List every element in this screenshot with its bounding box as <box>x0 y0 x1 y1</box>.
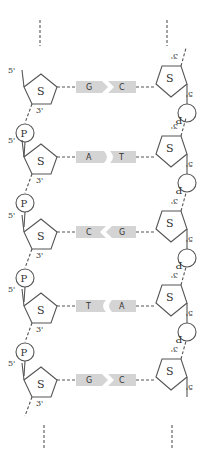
dna-diagram-svg: 5'S3'PGC3'S5'P5'S3'PAT3'S5'P5'S3'PCG3'S5… <box>0 0 209 465</box>
right-3prime-label: 3' <box>171 122 178 131</box>
left-phosphate-bond <box>24 212 25 227</box>
left-phosphate-label: P <box>21 128 28 139</box>
left-base <box>76 300 106 312</box>
left-base-label: G <box>86 376 92 385</box>
right-base-label: T <box>118 153 124 162</box>
left-5prime-bond <box>22 140 24 157</box>
left-base-label: A <box>86 153 92 162</box>
left-base-label: C <box>86 228 92 237</box>
left-phosphate-bond <box>24 287 25 302</box>
right-base-label: G <box>119 228 125 237</box>
left-phosphate-label: P <box>21 198 28 209</box>
right-5prime-label: 5' <box>186 383 193 392</box>
right-3prime-label: 3' <box>171 52 178 61</box>
left-5prime-label: 5' <box>8 136 15 145</box>
right-3prime-label: 3' <box>171 271 178 280</box>
right-sugar-label: S <box>166 291 174 304</box>
left-3prime-bond <box>25 323 32 342</box>
left-phosphate-label: P <box>21 273 28 284</box>
left-5prime-label: 5' <box>8 211 15 220</box>
right-sugar-label: S <box>166 217 174 230</box>
left-base <box>76 151 107 163</box>
left-sugar-label: S <box>37 378 45 391</box>
right-sugar-label: S <box>166 365 174 378</box>
right-phosphate-label: P <box>176 185 183 196</box>
right-5prime-label: 5' <box>186 90 193 99</box>
left-3prime-bond <box>25 174 32 193</box>
left-5prime-bond <box>22 70 24 87</box>
left-phosphate-label: P <box>21 347 28 358</box>
left-3prime-label: 3' <box>36 251 43 260</box>
right-3prime-bond <box>181 48 186 66</box>
right-phosphate-label: P <box>176 260 183 271</box>
left-sugar-label: S <box>37 155 45 168</box>
left-5prime-bond <box>22 289 24 306</box>
left-5prime-label: 5' <box>8 359 15 368</box>
left-5prime-label: 5' <box>8 285 15 294</box>
right-3prime-label: 3' <box>171 345 178 354</box>
left-base-label: T <box>85 302 91 311</box>
left-phosphate-bond <box>24 361 25 376</box>
right-3prime-label: 3' <box>171 197 178 206</box>
left-5prime-bond <box>22 363 24 380</box>
left-3prime-label: 3' <box>36 325 43 334</box>
right-sugar-label: S <box>166 72 174 85</box>
left-sugar-label: S <box>37 304 45 317</box>
left-3prime-bond <box>25 104 32 123</box>
right-5prime-label: 5' <box>186 309 193 318</box>
right-5prime-label: 5' <box>186 235 193 244</box>
left-sugar-label: S <box>37 230 45 243</box>
dna-diagram: 5'S3'PGC3'S5'P5'S3'PAT3'S5'P5'S3'PCG3'S5… <box>0 0 209 465</box>
left-sugar-label: S <box>37 85 45 98</box>
left-3prime-label: 3' <box>36 106 43 115</box>
left-3prime-label: 3' <box>36 176 43 185</box>
left-5prime-label: 5' <box>8 66 15 75</box>
right-base-label: A <box>119 302 125 311</box>
left-3prime-bond <box>25 397 32 416</box>
left-3prime-bond <box>25 249 32 268</box>
left-base-label: G <box>86 83 92 92</box>
right-phosphate-label: P <box>176 334 183 345</box>
right-base-label: C <box>119 83 125 92</box>
right-5prime-label: 5' <box>186 160 193 169</box>
left-3prime-label: 3' <box>36 399 43 408</box>
right-sugar-label: S <box>166 142 174 155</box>
right-base-label: C <box>119 376 125 385</box>
